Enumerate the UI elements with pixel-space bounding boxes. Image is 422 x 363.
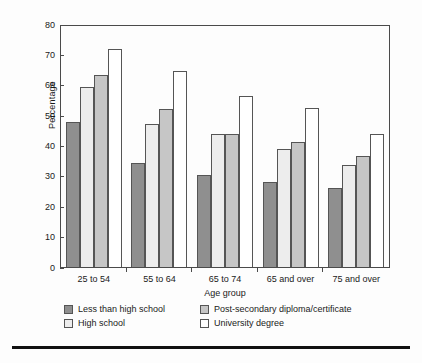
x-tick-label: 55 to 64 [127,274,193,284]
x-tick-label: 25 to 54 [61,274,127,284]
bar [131,163,145,267]
bar [239,96,253,267]
bar [328,188,342,267]
bar [80,87,94,267]
bar [145,124,159,267]
bar [159,109,173,267]
bar [108,49,122,267]
legend-item-university-degree: University degree [200,318,394,328]
y-tick-label: 20 [45,202,60,212]
legend-item-less-than-high-school: Less than high school [64,304,200,314]
legend-swatch-icon [64,319,73,328]
x-tick-label: 65 to 74 [192,274,258,284]
x-tick-mark [323,268,389,273]
y-axis-title: Percentage [47,45,57,165]
bar [211,134,225,267]
y-tick-label: 30 [45,171,60,181]
bar [277,149,291,267]
legend-label: Post-secondary diploma/certificate [214,304,352,314]
bar-group [61,26,127,267]
legend-label: High school [78,318,125,328]
legend-label: University degree [214,318,284,328]
bar [225,134,239,267]
bar-group [258,26,324,267]
legend-item-post-secondary: Post-secondary diploma/certificate [200,304,394,314]
bar-group [192,26,258,267]
legend-swatch-icon [64,305,73,314]
bar-group [127,26,193,267]
x-tick-label: 65 and over [258,274,324,284]
bar-group [323,26,389,267]
x-tick-mark [258,268,324,273]
bar [370,134,384,267]
bar [94,75,108,267]
y-tick-label: 0 [50,263,60,273]
legend-swatch-icon [200,319,209,328]
bar [342,165,356,267]
bottom-rule [12,346,410,349]
x-tick-label: 75 and over [323,274,389,284]
legend-swatch-icon [200,305,209,314]
x-tick-mark [61,268,127,273]
bar [305,108,319,267]
y-tick-label: 80 [45,20,60,30]
y-tick-label: 10 [45,232,60,242]
bar [197,175,211,267]
chart-figure: 80 70 60 50 40 30 20 10 0 Percentage 25 … [0,0,422,363]
chart-legend: Less than high school Post-secondary dip… [64,304,394,328]
x-axis-title: Age group [61,288,389,298]
x-tick-mark [192,268,258,273]
x-axis-labels: 25 to 54 55 to 64 65 to 74 65 and over 7… [61,274,389,284]
x-tick-mark [127,268,193,273]
bar [356,156,370,267]
bar [263,182,277,267]
bar [173,71,187,267]
legend-label: Less than high school [78,304,165,314]
bar [291,142,305,267]
bar-groups [61,26,389,267]
bar [66,122,80,267]
x-axis-ticks [61,268,389,273]
legend-item-high-school: High school [64,318,200,328]
